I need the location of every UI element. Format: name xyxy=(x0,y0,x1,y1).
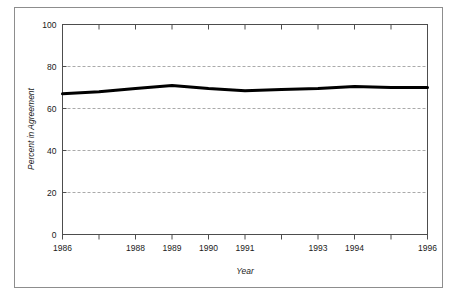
x-tick-label-1991: 1991 xyxy=(236,243,255,253)
x-tick-label-1996: 1996 xyxy=(418,243,437,253)
y-tick-label-100: 100 xyxy=(42,20,56,30)
plot-area-border xyxy=(63,25,428,235)
y-tick-label-40: 40 xyxy=(47,146,57,156)
x-axis-title: Year xyxy=(236,266,255,276)
figure-container: 020406080100 198619881989199019911993199… xyxy=(0,0,459,294)
x-tick-label-1990: 1990 xyxy=(199,243,218,253)
x-axis-tick-labels: 19861988198919901991199319941996 xyxy=(53,243,437,253)
gridlines xyxy=(63,67,428,193)
y-axis-title: Percent in Agreement xyxy=(26,87,36,170)
series-line-0 xyxy=(63,85,428,93)
x-tick-label-1988: 1988 xyxy=(126,243,145,253)
y-tick-label-60: 60 xyxy=(47,104,57,114)
line-chart: 020406080100 198619881989199019911993199… xyxy=(0,0,459,294)
y-tick-label-20: 20 xyxy=(47,188,57,198)
y-tick-label-0: 0 xyxy=(52,230,57,240)
y-axis-tick-labels: 020406080100 xyxy=(42,20,56,240)
x-tick-label-1986: 1986 xyxy=(53,243,72,253)
x-tick-label-1993: 1993 xyxy=(309,243,328,253)
x-tick-label-1994: 1994 xyxy=(345,243,364,253)
y-axis-ticks xyxy=(63,25,67,235)
x-axis-ticks xyxy=(63,25,428,240)
x-tick-label-1989: 1989 xyxy=(163,243,182,253)
y-tick-label-80: 80 xyxy=(47,62,57,72)
data-series-group xyxy=(63,85,428,93)
